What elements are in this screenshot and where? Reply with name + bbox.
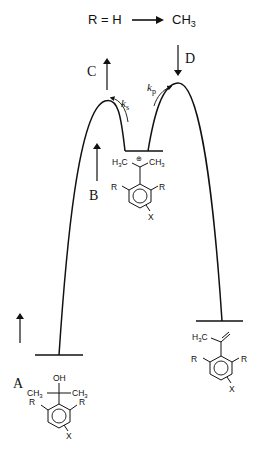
molecule-carbocation: H3C ⊕ CH3 R R X	[111, 155, 165, 222]
label-a: A	[13, 376, 24, 391]
header-left: R = H	[88, 12, 122, 27]
x-label: X	[229, 384, 235, 394]
oh-label: OH	[53, 373, 66, 383]
header-right: CH3	[172, 12, 196, 29]
x-label: X	[66, 431, 72, 441]
r-left-label: R	[191, 354, 197, 364]
label-d: D	[185, 51, 195, 66]
molecule-alcohol: OH CH3 CH3 R R X	[27, 373, 88, 441]
x-label: X	[148, 212, 154, 222]
positive-charge-icon: ⊕	[136, 155, 142, 162]
molecule-alkene: H3C R R X	[191, 332, 247, 394]
label-kp: kp	[147, 81, 156, 96]
r-left-label: R	[29, 397, 35, 407]
energy-curve-barrier-1	[59, 100, 125, 355]
energy-profile-diagram: R = H CH3 A B C D ks kp OH CH3 CH3 R R X	[0, 0, 262, 449]
label-c: C	[87, 64, 96, 79]
ch3-label: CH3	[149, 157, 165, 168]
arrowhead-icon	[156, 16, 164, 24]
energy-curve-barrier-2	[148, 83, 222, 321]
label-ks: ks	[121, 97, 129, 112]
label-b: B	[89, 188, 98, 203]
header: R = H CH3	[88, 12, 196, 29]
h3c-label: H3C	[192, 332, 208, 343]
r-right-label: R	[79, 397, 85, 407]
r-right-label: R	[159, 182, 165, 192]
r-left-label: R	[111, 182, 117, 192]
h3c-label: H3C	[112, 157, 128, 168]
r-right-label: R	[241, 354, 247, 364]
